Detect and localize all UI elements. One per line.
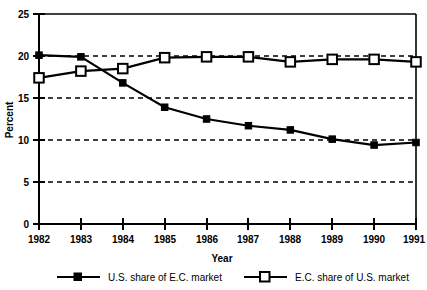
data-point-open-square: [327, 55, 337, 65]
y-tick-label-0: 0: [23, 219, 29, 230]
data-point-filled-square: [245, 122, 252, 129]
chart-container: 25 20 15 10 5 0 1982 1983 1984 1985 19: [0, 0, 427, 290]
data-point-open-square: [411, 57, 421, 67]
x-tick-label-1988: 1988: [279, 234, 302, 245]
data-point-filled-square: [413, 139, 420, 146]
legend-label-ec-share: E.C. share of U.S. market: [295, 272, 409, 283]
x-tick-label-1982: 1982: [28, 234, 51, 245]
x-tick-label-1986: 1986: [196, 234, 219, 245]
data-point-open-square: [286, 57, 296, 67]
data-point-open-square: [76, 66, 86, 76]
data-point-open-square: [244, 52, 254, 62]
chart-background: [0, 0, 427, 290]
x-tick-label-1990: 1990: [363, 234, 386, 245]
x-tick-label-1991: 1991: [403, 234, 426, 245]
y-tick-label-5: 5: [23, 177, 29, 188]
legend-label-us-share: U.S. share of E.C. market: [108, 272, 222, 283]
data-point-open-square: [160, 53, 170, 63]
filled-square-icon: [74, 273, 82, 281]
y-tick-label-15: 15: [18, 93, 30, 104]
legend-item-ec-share[interactable]: E.C. share of U.S. market: [244, 272, 409, 283]
data-point-filled-square: [161, 104, 168, 111]
line-chart: 25 20 15 10 5 0 1982 1983 1984 1985 19: [0, 0, 427, 290]
data-point-open-square: [202, 52, 212, 62]
data-point-open-square: [34, 73, 44, 83]
data-point-filled-square: [36, 52, 43, 59]
y-tick-label-10: 10: [18, 135, 30, 146]
x-tick-label-1989: 1989: [321, 234, 344, 245]
data-point-open-square: [118, 64, 128, 74]
y-axis-title: Percent: [4, 101, 15, 138]
data-point-filled-square: [329, 136, 336, 143]
data-point-open-square: [369, 55, 379, 65]
data-point-filled-square: [287, 127, 294, 134]
x-axis-title: Year: [211, 253, 232, 264]
x-tick-label-1987: 1987: [237, 234, 260, 245]
open-square-icon: [260, 272, 270, 282]
data-point-filled-square: [120, 80, 127, 87]
y-tick-label-20: 20: [18, 51, 30, 62]
data-point-filled-square: [371, 142, 378, 149]
data-point-filled-square: [78, 54, 85, 61]
y-tick-label-25: 25: [18, 9, 30, 20]
x-tick-label-1985: 1985: [154, 234, 177, 245]
x-tick-label-1984: 1984: [112, 234, 135, 245]
data-point-filled-square: [203, 116, 210, 123]
x-tick-label-1983: 1983: [70, 234, 93, 245]
